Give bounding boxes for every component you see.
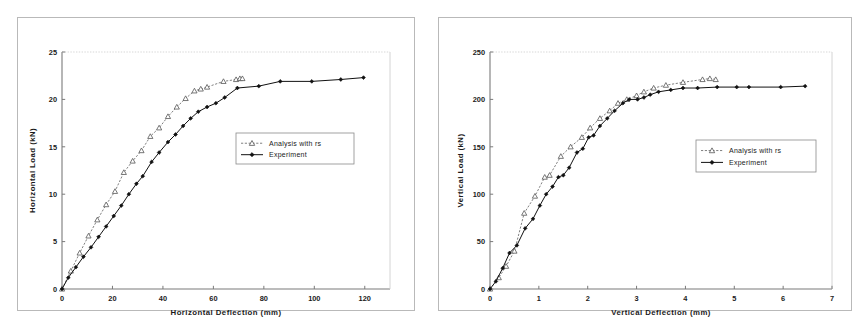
y-tick-label: 100 <box>473 190 485 199</box>
x-tick-label: 100 <box>308 294 320 303</box>
legend-label: Analysis with rs <box>269 140 321 148</box>
y-tick-label: 5 <box>53 237 57 246</box>
marker-open-triangle <box>607 108 612 113</box>
y-tick-label: 10 <box>49 190 57 199</box>
marker-open-triangle <box>615 101 620 106</box>
series-experiment <box>488 84 807 291</box>
marker-filled-diamond <box>747 85 751 89</box>
x-tick-label: 7 <box>830 294 834 303</box>
marker-open-triangle <box>112 189 117 194</box>
y-tick-label: 15 <box>49 143 57 152</box>
chart-panel-vertical: 01234567050100150200250Vertical Deflecti… <box>420 0 865 327</box>
marker-filled-diamond <box>715 85 719 89</box>
marker-filled-diamond <box>803 84 807 88</box>
marker-open-triangle <box>634 93 639 98</box>
marker-open-triangle <box>77 250 82 255</box>
marker-open-triangle <box>139 148 144 153</box>
marker-open-triangle <box>663 83 668 88</box>
legend-label: Analysis with rs <box>729 147 781 155</box>
x-tick-label: 1 <box>537 294 541 303</box>
marker-open-triangle <box>104 202 109 207</box>
y-tick-label: 20 <box>49 95 57 104</box>
legend-label: Experiment <box>729 159 767 167</box>
horizontal-load-chart: 0204060801001200510152025Horizontal Defl… <box>0 0 420 327</box>
y-tick-label: 25 <box>49 48 57 57</box>
marker-filled-diamond <box>257 84 261 88</box>
marker-open-triangle <box>183 96 188 101</box>
marker-filled-diamond <box>669 88 673 92</box>
figure-row: 0204060801001200510152025Horizontal Defl… <box>0 0 865 327</box>
marker-filled-diamond <box>205 105 209 109</box>
marker-open-triangle <box>641 89 646 94</box>
marker-open-triangle <box>707 76 712 81</box>
y-tick-label: 150 <box>473 143 485 152</box>
x-axis-title: Horizontal Deflection (mm) <box>171 308 282 317</box>
vertical-load-chart: 01234567050100150200250Vertical Deflecti… <box>420 0 865 327</box>
series-line <box>490 79 716 289</box>
marker-open-triangle <box>547 173 552 178</box>
x-tick-label: 2 <box>586 294 590 303</box>
marker-open-triangle <box>221 79 226 84</box>
x-tick-label: 6 <box>781 294 785 303</box>
x-tick-label: 60 <box>209 294 217 303</box>
y-tick-label: 250 <box>473 48 485 57</box>
legend-box <box>696 140 816 172</box>
marker-open-triangle <box>522 211 527 216</box>
marker-open-triangle <box>95 217 100 222</box>
y-axis-title: Vertical Load (kN) <box>456 134 465 208</box>
marker-open-triangle <box>542 175 547 180</box>
x-tick-label: 20 <box>108 294 116 303</box>
legend-label: Experiment <box>269 151 307 159</box>
marker-filled-diamond <box>735 85 739 89</box>
marker-filled-diamond <box>657 90 661 94</box>
marker-filled-diamond <box>642 96 646 100</box>
legend-box <box>236 133 354 164</box>
series-line <box>62 78 364 289</box>
marker-filled-diamond <box>696 86 700 90</box>
x-tick-label: 0 <box>60 294 64 303</box>
y-tick-label: 50 <box>477 237 485 246</box>
marker-filled-diamond <box>648 93 652 97</box>
marker-filled-diamond <box>362 76 366 80</box>
y-axis-title: Horizontal Load (kN) <box>28 128 37 213</box>
marker-open-triangle <box>558 154 563 159</box>
y-tick-label: 200 <box>473 95 485 104</box>
marker-open-triangle <box>700 77 705 82</box>
marker-open-triangle <box>597 116 602 121</box>
series-line <box>62 79 242 289</box>
marker-filled-diamond <box>278 79 282 83</box>
x-tick-label: 40 <box>159 294 167 303</box>
x-tick-label: 80 <box>260 294 268 303</box>
marker-open-triangle <box>174 104 179 109</box>
marker-filled-diamond <box>310 79 314 83</box>
series-analysis <box>59 76 245 291</box>
marker-filled-diamond <box>779 85 783 89</box>
marker-open-triangle <box>588 125 593 130</box>
chart-panel-horizontal: 0204060801001200510152025Horizontal Defl… <box>0 0 420 327</box>
marker-filled-diamond <box>339 78 343 82</box>
y-tick-label: 0 <box>53 285 57 294</box>
marker-open-triangle <box>192 88 197 93</box>
x-axis-title: Vertical Deflection (mm) <box>611 308 711 317</box>
series-line <box>490 86 805 289</box>
marker-open-triangle <box>532 193 537 198</box>
y-tick-label: 0 <box>481 285 485 294</box>
marker-open-triangle <box>86 233 91 238</box>
x-tick-label: 120 <box>359 294 371 303</box>
marker-filled-diamond <box>587 135 591 139</box>
x-tick-label: 0 <box>488 294 492 303</box>
x-tick-label: 5 <box>732 294 736 303</box>
x-tick-label: 3 <box>635 294 639 303</box>
marker-filled-diamond <box>538 204 542 208</box>
marker-filled-diamond <box>681 86 685 90</box>
x-tick-label: 4 <box>683 294 688 303</box>
series-experiment <box>60 76 365 291</box>
series-analysis <box>487 76 718 291</box>
